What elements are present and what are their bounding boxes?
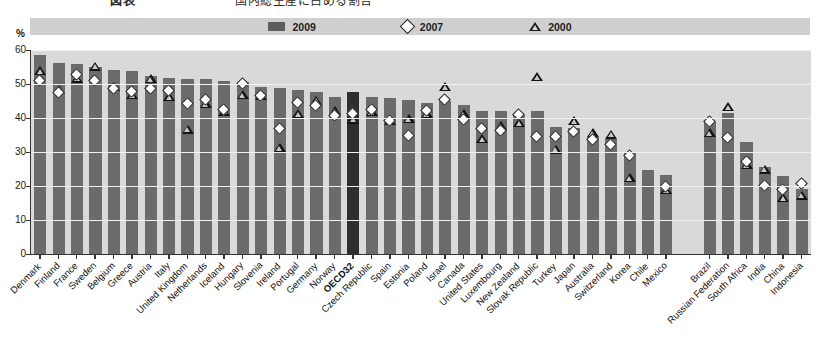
triangle-icon bbox=[476, 134, 488, 143]
y-tick bbox=[26, 84, 31, 85]
gridline bbox=[31, 118, 811, 119]
y-axis-tick-label: 30 bbox=[2, 146, 26, 157]
y-axis-tick-label: 60 bbox=[2, 44, 26, 55]
bar-2009[interactable] bbox=[513, 114, 525, 254]
bar-2009[interactable] bbox=[71, 64, 83, 254]
bar-2009[interactable] bbox=[642, 170, 654, 254]
header-remnant: 図表 国内総生産に占める割合 bbox=[0, 0, 822, 14]
legend-diamond-icon bbox=[400, 19, 416, 35]
triangle-icon bbox=[759, 165, 771, 174]
triangle-icon bbox=[182, 125, 194, 134]
triangle-icon bbox=[624, 173, 636, 182]
bar-2009[interactable] bbox=[439, 101, 451, 254]
triangle-icon bbox=[237, 90, 249, 99]
header-remnant-right: 国内総生産に占める割合 bbox=[235, 0, 373, 8]
legend-label: 2007 bbox=[420, 21, 443, 33]
bar-2009[interactable] bbox=[624, 152, 636, 254]
y-tick bbox=[26, 186, 31, 187]
triangle-icon bbox=[704, 128, 716, 137]
x-axis-labels: DenmarkFinlandFranceSwedenBelgiumGreeceA… bbox=[0, 258, 822, 354]
legend-square-icon bbox=[268, 22, 285, 31]
bar-2009[interactable] bbox=[163, 78, 175, 254]
bar-2009[interactable] bbox=[255, 87, 267, 254]
gridline bbox=[31, 50, 811, 51]
triangle-icon bbox=[292, 109, 304, 118]
legend-label: 2009 bbox=[292, 21, 315, 33]
gridline bbox=[31, 220, 811, 221]
y-tick bbox=[26, 220, 31, 221]
plot-area bbox=[30, 50, 811, 255]
gridline bbox=[31, 152, 811, 153]
y-axis-labels: 0102030405060 bbox=[0, 50, 26, 254]
y-axis-tick-label: 20 bbox=[2, 180, 26, 191]
bar-2009[interactable] bbox=[568, 128, 580, 254]
gridline bbox=[31, 84, 811, 85]
bar-2009[interactable] bbox=[458, 105, 470, 254]
legend-label: 2000 bbox=[548, 21, 571, 33]
chart-figure: 図表 国内総生産に占める割合 % 200920072000 0102030405… bbox=[0, 0, 822, 354]
header-remnant-left: 図表 bbox=[110, 0, 135, 8]
bar-2009[interactable] bbox=[587, 137, 599, 254]
bar-2009[interactable] bbox=[108, 70, 120, 254]
chart-legend: 200920072000 bbox=[30, 18, 810, 35]
triangle-icon bbox=[531, 72, 543, 81]
bar-2009[interactable] bbox=[704, 122, 716, 254]
bar-2009[interactable] bbox=[145, 76, 157, 254]
y-tick bbox=[26, 152, 31, 153]
bar-2009[interactable] bbox=[310, 92, 322, 254]
bar-2009[interactable] bbox=[237, 82, 249, 254]
y-axis-tick-label: 50 bbox=[2, 78, 26, 89]
bar-2009[interactable] bbox=[421, 103, 433, 254]
y-axis-tick-label: 10 bbox=[2, 214, 26, 225]
triangle-icon bbox=[605, 130, 617, 139]
bar-2009[interactable] bbox=[89, 67, 101, 254]
bar-2009[interactable] bbox=[402, 100, 414, 254]
triangle-icon bbox=[89, 62, 101, 71]
legend-item-2009: 2009 bbox=[268, 21, 315, 33]
bar-2009[interactable] bbox=[274, 88, 286, 254]
bar-2009[interactable] bbox=[366, 97, 378, 254]
y-axis-tick-label: 40 bbox=[2, 112, 26, 123]
y-tick bbox=[26, 50, 31, 51]
legend-item-2000: 2000 bbox=[529, 21, 571, 33]
triangle-icon bbox=[722, 102, 734, 111]
triangle-icon bbox=[274, 143, 286, 152]
gridline bbox=[31, 186, 811, 187]
legend-triangle-icon bbox=[529, 22, 541, 31]
legend-item-2007: 2007 bbox=[402, 21, 443, 33]
triangle-icon bbox=[796, 191, 808, 200]
y-tick bbox=[26, 118, 31, 119]
bar-2009[interactable] bbox=[605, 139, 617, 254]
y-axis-unit: % bbox=[16, 28, 25, 39]
